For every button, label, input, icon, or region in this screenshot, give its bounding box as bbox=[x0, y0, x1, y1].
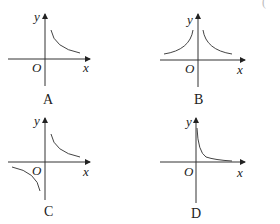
panel-label-b: B bbox=[194, 92, 203, 107]
x-label: x bbox=[236, 165, 243, 180]
y-label: y bbox=[32, 9, 40, 24]
function-curve bbox=[197, 128, 232, 161]
panel-label-c: C bbox=[44, 204, 53, 219]
figure-canvas: ( y x O A y x O B y x O C y x O bbox=[0, 0, 280, 224]
origin-label: O bbox=[185, 61, 195, 76]
function-curve-q1 bbox=[51, 134, 80, 157]
x-label: x bbox=[82, 60, 89, 75]
origin-label: O bbox=[32, 60, 42, 75]
panel-a[interactable]: y x O A bbox=[8, 9, 90, 107]
y-label: y bbox=[32, 113, 40, 128]
answer-paren: ( bbox=[262, 0, 266, 9]
panel-b[interactable]: y x O B bbox=[160, 12, 245, 107]
panel-d[interactable]: y x O D bbox=[160, 114, 245, 221]
origin-label: O bbox=[32, 163, 42, 178]
function-curve bbox=[51, 30, 80, 53]
function-curve-right bbox=[203, 30, 232, 54]
x-label: x bbox=[236, 62, 243, 77]
origin-label: O bbox=[184, 164, 194, 179]
x-label: x bbox=[82, 164, 89, 179]
panel-label-a: A bbox=[43, 92, 54, 107]
panel-c[interactable]: y x O C bbox=[8, 113, 90, 219]
y-label: y bbox=[184, 114, 192, 129]
panel-label-d: D bbox=[191, 206, 201, 221]
function-curve-left bbox=[164, 30, 193, 54]
y-label: y bbox=[185, 12, 193, 27]
